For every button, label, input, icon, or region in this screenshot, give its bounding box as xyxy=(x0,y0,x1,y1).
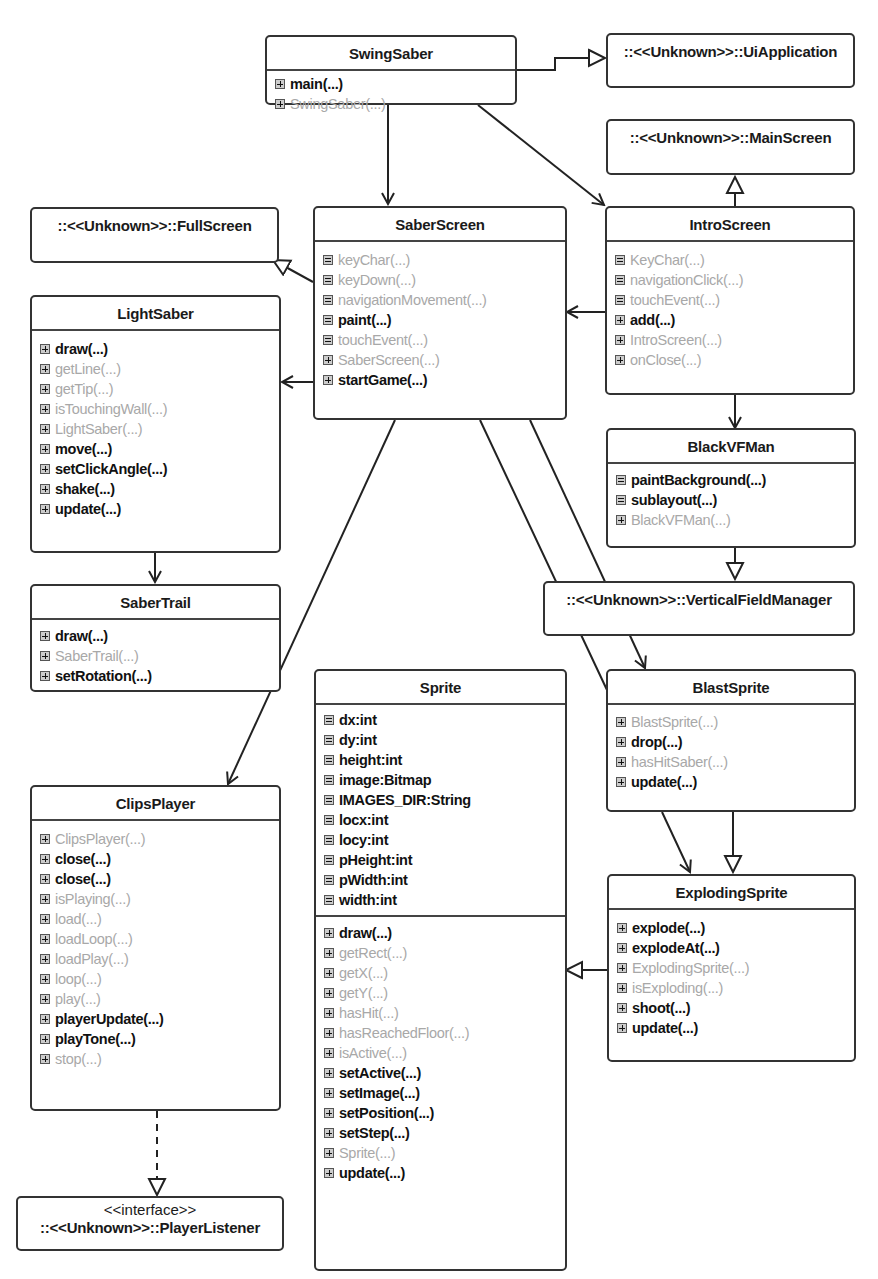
method-row[interactable]: touchEvent(...) xyxy=(323,330,565,350)
external-class-uiapplication[interactable]: ::<<Unknown>>::UiApplication xyxy=(606,33,855,88)
method-row[interactable]: getRect(...) xyxy=(324,943,565,963)
method-row[interactable]: getX(...) xyxy=(324,963,565,983)
method-row[interactable]: isExploding(...) xyxy=(617,978,854,998)
method-row[interactable]: update(...) xyxy=(616,772,854,792)
methods-section: KeyChar(...) navigationClick(...) touchE… xyxy=(607,242,853,374)
method-row[interactable]: hasHit(...) xyxy=(324,1003,565,1023)
method-row[interactable]: IntroScreen(...) xyxy=(615,330,853,350)
attribute-row[interactable]: dx:int xyxy=(324,710,565,730)
method-row[interactable]: onClose(...) xyxy=(615,350,853,370)
method-row[interactable]: navigationMovement(...) xyxy=(323,290,565,310)
method-row[interactable]: navigationClick(...) xyxy=(615,270,853,290)
method-row[interactable]: ExplodingSprite(...) xyxy=(617,958,854,978)
method-row[interactable]: move(...) xyxy=(40,439,279,459)
method-row[interactable]: explodeAt(...) xyxy=(617,938,854,958)
class-introscreen[interactable]: IntroScreen KeyChar(...) navigationClick… xyxy=(605,206,855,395)
method-row[interactable]: ClipsPlayer(...) xyxy=(40,829,279,849)
method-row[interactable]: paintBackground(...) xyxy=(616,470,854,490)
method-row[interactable]: KeyChar(...) xyxy=(615,250,853,270)
method-row[interactable]: update(...) xyxy=(40,499,279,519)
method-label: playerUpdate(...) xyxy=(55,1009,164,1029)
method-row[interactable]: BlackVFMan(...) xyxy=(616,510,854,530)
attribute-row[interactable]: locy:int xyxy=(324,830,565,850)
method-row[interactable]: playerUpdate(...) xyxy=(40,1009,279,1029)
method-row[interactable]: main(...) xyxy=(275,74,515,94)
method-row[interactable]: Sprite(...) xyxy=(324,1143,565,1163)
attribute-row[interactable]: width:int xyxy=(324,890,565,910)
method-row[interactable]: draw(...) xyxy=(40,626,279,646)
attribute-row[interactable]: height:int xyxy=(324,750,565,770)
method-row[interactable]: loadPlay(...) xyxy=(40,949,279,969)
method-row[interactable]: stop(...) xyxy=(40,1049,279,1069)
method-row[interactable]: keyChar(...) xyxy=(323,250,565,270)
attribute-label: IMAGES_DIR:String xyxy=(339,790,471,810)
method-row[interactable]: setClickAngle(...) xyxy=(40,459,279,479)
method-row[interactable]: isActive(...) xyxy=(324,1043,565,1063)
attribute-row[interactable]: locx:int xyxy=(324,810,565,830)
method-label: explodeAt(...) xyxy=(632,938,720,958)
method-row[interactable]: sublayout(...) xyxy=(616,490,854,510)
method-row[interactable]: isTouchingWall(...) xyxy=(40,399,279,419)
class-lightsaber[interactable]: LightSaber draw(...) getLine(...) getTip… xyxy=(30,295,281,553)
method-row[interactable]: shake(...) xyxy=(40,479,279,499)
public-member-icon xyxy=(615,315,625,325)
method-row[interactable]: close(...) xyxy=(40,869,279,889)
method-row[interactable]: SwingSaber(...) xyxy=(275,94,515,114)
method-row[interactable]: load(...) xyxy=(40,909,279,929)
method-row[interactable]: drop(...) xyxy=(616,732,854,752)
method-row[interactable]: keyDown(...) xyxy=(323,270,565,290)
method-row[interactable]: loadLoop(...) xyxy=(40,929,279,949)
external-class-mainscreen[interactable]: ::<<Unknown>>::MainScreen xyxy=(606,119,855,175)
method-row[interactable]: getLine(...) xyxy=(40,359,279,379)
class-sabertrail[interactable]: SaberTrail draw(...) SaberTrail(...) set… xyxy=(30,584,281,692)
method-row[interactable]: shoot(...) xyxy=(617,998,854,1018)
interface-playerlistener[interactable]: <<interface>> ::<<Unknown>>::PlayerListe… xyxy=(16,1196,284,1251)
class-sprite[interactable]: Sprite dx:int dy:int height:int image:Bi… xyxy=(314,669,567,1271)
class-swingsaber[interactable]: SwingSaber main(...) SwingSaber(...) xyxy=(265,35,517,105)
method-row[interactable]: close(...) xyxy=(40,849,279,869)
class-blackvfman[interactable]: BlackVFMan paintBackground(...) sublayou… xyxy=(606,428,856,548)
class-clipsplayer[interactable]: ClipsPlayer ClipsPlayer(...) close(...) … xyxy=(30,785,281,1111)
method-row[interactable]: startGame(...) xyxy=(323,370,565,390)
method-row[interactable]: update(...) xyxy=(324,1163,565,1183)
attribute-row[interactable]: pWidth:int xyxy=(324,870,565,890)
method-row[interactable]: BlastSprite(...) xyxy=(616,712,854,732)
method-row[interactable]: SaberScreen(...) xyxy=(323,350,565,370)
external-class-fullscreen[interactable]: ::<<Unknown>>::FullScreen xyxy=(30,207,279,263)
method-row[interactable]: setStep(...) xyxy=(324,1123,565,1143)
method-row[interactable]: isPlaying(...) xyxy=(40,889,279,909)
method-row[interactable]: playTone(...) xyxy=(40,1029,279,1049)
method-row[interactable]: add(...) xyxy=(615,310,853,330)
method-row[interactable]: touchEvent(...) xyxy=(615,290,853,310)
method-row[interactable]: getY(...) xyxy=(324,983,565,1003)
attribute-row[interactable]: pHeight:int xyxy=(324,850,565,870)
method-row[interactable]: paint(...) xyxy=(323,310,565,330)
generalization-saberscreen-fullscreen xyxy=(273,260,313,282)
attribute-row[interactable]: IMAGES_DIR:String xyxy=(324,790,565,810)
method-row[interactable]: play(...) xyxy=(40,989,279,1009)
class-saberscreen[interactable]: SaberScreen keyChar(...) keyDown(...) na… xyxy=(313,206,567,420)
method-row[interactable]: setPosition(...) xyxy=(324,1103,565,1123)
method-row[interactable]: draw(...) xyxy=(40,339,279,359)
method-row[interactable]: hasReachedFloor(...) xyxy=(324,1023,565,1043)
method-row[interactable]: hasHitSaber(...) xyxy=(616,752,854,772)
class-blastsprite[interactable]: BlastSprite BlastSprite(...) drop(...) h… xyxy=(606,669,856,812)
method-label: hasReachedFloor(...) xyxy=(339,1023,469,1043)
method-row[interactable]: LightSaber(...) xyxy=(40,419,279,439)
method-row[interactable]: explode(...) xyxy=(617,918,854,938)
method-row[interactable]: update(...) xyxy=(617,1018,854,1038)
attribute-row[interactable]: image:Bitmap xyxy=(324,770,565,790)
method-row[interactable]: SaberTrail(...) xyxy=(40,646,279,666)
method-row[interactable]: setRotation(...) xyxy=(40,666,279,686)
class-explodingsprite[interactable]: ExplodingSprite explode(...) explodeAt(.… xyxy=(607,874,856,1062)
method-row[interactable]: getTip(...) xyxy=(40,379,279,399)
public-member-icon xyxy=(324,1108,334,1118)
external-class-verticalfieldmanager[interactable]: ::<<Unknown>>::VerticalFieldManager xyxy=(543,581,855,636)
field-icon xyxy=(324,895,334,905)
method-row[interactable]: setActive(...) xyxy=(324,1063,565,1083)
public-member-icon xyxy=(40,954,50,964)
method-row[interactable]: loop(...) xyxy=(40,969,279,989)
method-row[interactable]: setImage(...) xyxy=(324,1083,565,1103)
attribute-row[interactable]: dy:int xyxy=(324,730,565,750)
method-row[interactable]: draw(...) xyxy=(324,923,565,943)
